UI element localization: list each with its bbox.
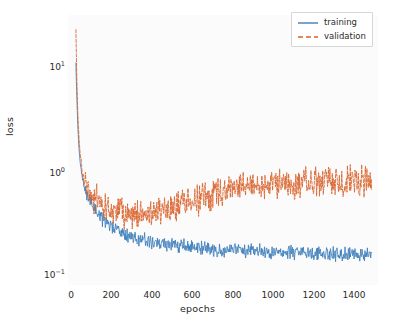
plot-area xyxy=(68,15,378,285)
legend-swatch-dashed-icon xyxy=(297,32,319,42)
y-axis-label: loss xyxy=(4,117,15,136)
series-line-training xyxy=(76,63,372,262)
y-tick-1e0: 100 xyxy=(49,169,65,178)
legend-swatch-solid-icon xyxy=(297,18,319,28)
legend-label-training: training xyxy=(324,18,357,27)
x-tick-1400: 1400 xyxy=(343,291,366,300)
legend-item-validation[interactable]: validation xyxy=(297,31,366,42)
x-tick-200: 200 xyxy=(102,291,119,300)
x-tick-400: 400 xyxy=(143,291,160,300)
legend-item-training[interactable]: training xyxy=(297,17,366,28)
x-tick-0: 0 xyxy=(68,291,74,300)
x-tick-800: 800 xyxy=(224,291,241,300)
y-tick-1e1: 101 xyxy=(49,63,65,72)
legend: training validation xyxy=(291,12,373,47)
legend-label-validation: validation xyxy=(324,32,366,41)
x-tick-1200: 1200 xyxy=(303,291,326,300)
x-tick-1000: 1000 xyxy=(262,291,285,300)
x-axis-label: epochs xyxy=(0,303,395,314)
chart-figure: 101 100 10−1 0 200 400 600 800 1000 1200… xyxy=(0,0,395,323)
series-line-validation xyxy=(76,30,372,230)
loss-curves-svg xyxy=(68,15,378,285)
x-tick-600: 600 xyxy=(183,291,200,300)
y-tick-1e-1: 10−1 xyxy=(44,271,65,280)
